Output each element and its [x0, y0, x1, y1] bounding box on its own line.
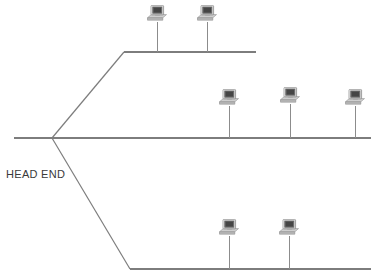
cable-lines-group — [14, 52, 371, 269]
head-end-label: HEAD END — [6, 168, 65, 180]
workstation-bottom-2-icon[interactable] — [280, 220, 299, 235]
workstation-mid-2-icon[interactable] — [281, 88, 300, 103]
workstation-mid-1-icon[interactable] — [220, 90, 239, 105]
upper-branch-riser — [52, 52, 124, 138]
workstation-top-2-icon[interactable] — [198, 6, 217, 21]
topology-canvas — [0, 0, 371, 278]
workstation-bottom-1-icon[interactable] — [220, 220, 239, 235]
drop-lines-group — [157, 22, 355, 269]
workstation-mid-3-icon[interactable] — [346, 90, 365, 105]
workstation-icons-group — [148, 6, 365, 235]
lower-branch-riser — [52, 138, 130, 269]
workstation-top-1-icon[interactable] — [148, 6, 167, 21]
network-topology-diagram: HEAD END — [0, 0, 371, 278]
